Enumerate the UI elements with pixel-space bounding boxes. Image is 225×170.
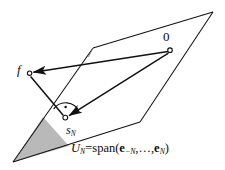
span-word: span	[92, 141, 115, 155]
sn-point-marker	[63, 115, 68, 120]
basis-first-subscript: −N	[125, 147, 135, 156]
close-paren: )	[165, 141, 169, 155]
projection-point-label: sN	[66, 124, 76, 138]
subspace-symbol: U	[71, 141, 80, 155]
figure-canvas: 0 f sN UN=span(e−N,…,eN)	[0, 0, 225, 170]
f-point-marker	[27, 71, 31, 75]
subspace-definition-label: UN=span(e−N,…,eN)	[71, 142, 169, 156]
origin-label: 0	[163, 30, 170, 43]
projection-subscript: N	[71, 129, 76, 138]
origin-point-marker	[168, 48, 173, 53]
vector-origin-to-f	[34, 52, 169, 73]
vector-origin-to-sn	[69, 53, 168, 115]
plane-edge-tick	[89, 48, 94, 57]
segment-f-to-sn	[31, 77, 64, 116]
right-angle-dot	[64, 106, 67, 109]
shaded-triangle	[13, 117, 69, 162]
function-point-label: f	[17, 63, 21, 76]
basis-ellipsis: ,…,	[135, 141, 154, 155]
